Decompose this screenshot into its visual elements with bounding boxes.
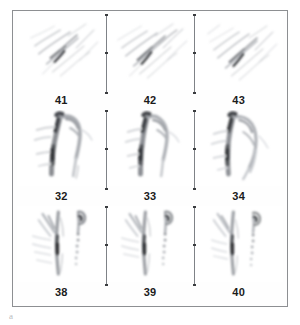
slice-label: 39 (144, 287, 157, 298)
slice-label: 40 (232, 287, 245, 298)
montage-cell-33[interactable]: 33 (106, 110, 195, 206)
divider-tick-bottom (193, 284, 196, 286)
column-divider-2 (194, 14, 195, 94)
column-divider-6 (194, 206, 195, 286)
divider-tick-bottom (193, 188, 196, 190)
figure-panel: 41 (0, 0, 300, 325)
slice-label: 33 (144, 191, 157, 202)
column-divider-5 (106, 206, 107, 286)
slice-label: 42 (144, 95, 157, 106)
divider-tick-top (193, 206, 196, 208)
divider-tick-top (105, 110, 108, 112)
montage-grid: 41 (13, 11, 287, 306)
divider-tick-mid (193, 244, 196, 246)
montage-frame: 41 (12, 10, 288, 307)
montage-cell-41[interactable]: 41 (17, 14, 106, 110)
slice-image-34[interactable] (194, 110, 283, 186)
montage-cell-40[interactable]: 40 (194, 206, 283, 302)
divider-tick-top (105, 206, 108, 208)
divider-tick-top (193, 14, 196, 16)
divider-tick-top (105, 14, 108, 16)
slice-image-38[interactable] (17, 206, 106, 282)
slice-image-40[interactable] (194, 206, 283, 282)
slice-image-33[interactable] (106, 110, 195, 186)
montage-row-1: 41 (17, 14, 283, 110)
divider-tick-mid (105, 244, 108, 246)
slice-image-42[interactable] (106, 14, 195, 90)
slice-label: 41 (55, 95, 68, 106)
slice-label: 32 (55, 191, 68, 202)
slice-image-43[interactable] (194, 14, 283, 90)
slice-label: 38 (55, 287, 68, 298)
divider-tick-bottom (105, 92, 108, 94)
divider-tick-top (193, 110, 196, 112)
montage-cell-39[interactable]: 39 (106, 206, 195, 302)
montage-cell-42[interactable]: 42 (106, 14, 195, 110)
montage-row-3: 38 (17, 206, 283, 302)
column-divider-3 (106, 110, 107, 190)
slice-image-41[interactable] (17, 14, 106, 90)
divider-tick-mid (193, 148, 196, 150)
montage-cell-38[interactable]: 38 (17, 206, 106, 302)
montage-row-2: 32 (17, 110, 283, 206)
divider-tick-mid (105, 52, 108, 54)
divider-tick-mid (105, 148, 108, 150)
column-divider-4 (194, 110, 195, 190)
slice-image-39[interactable] (106, 206, 195, 282)
divider-tick-mid (193, 52, 196, 54)
divider-tick-bottom (105, 188, 108, 190)
column-divider-1 (106, 14, 107, 94)
slice-label: 43 (232, 95, 245, 106)
montage-cell-43[interactable]: 43 (194, 14, 283, 110)
divider-tick-bottom (193, 92, 196, 94)
scan-artifact: a (9, 312, 16, 320)
slice-image-32[interactable] (17, 110, 106, 186)
montage-cell-32[interactable]: 32 (17, 110, 106, 206)
montage-cell-34[interactable]: 34 (194, 110, 283, 206)
slice-label: 34 (232, 191, 245, 202)
divider-tick-bottom (105, 284, 108, 286)
